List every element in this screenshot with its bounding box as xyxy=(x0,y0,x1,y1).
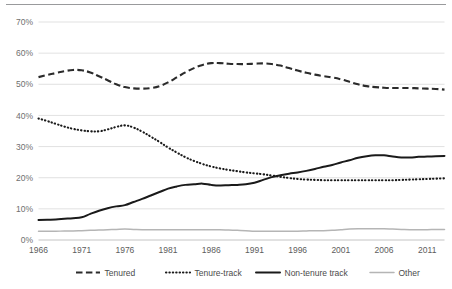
y-tick-label: 50% xyxy=(16,79,33,89)
series-line-tenure-track xyxy=(39,119,445,181)
x-axis-tick-labels: 1966197119761981198619911996200120062011 xyxy=(29,245,437,255)
x-tick-label: 1966 xyxy=(29,245,48,255)
chart-container: 0%10%20%30%40%50%60%70% 1966197119761981… xyxy=(0,0,452,289)
line-chart: 0%10%20%30%40%50%60%70% 1966197119761981… xyxy=(0,0,452,289)
x-tick-label: 1976 xyxy=(115,245,134,255)
x-tick-label: 1991 xyxy=(245,245,264,255)
x-tick-label: 2001 xyxy=(331,245,350,255)
data-series-group xyxy=(39,63,445,231)
legend-label-tenure-track: Tenure-track xyxy=(195,268,243,278)
x-tick-label: 1986 xyxy=(202,245,221,255)
series-line-other xyxy=(39,229,445,232)
x-tick-label: 1971 xyxy=(72,245,91,255)
y-tick-label: 20% xyxy=(16,173,33,183)
series-line-non-tenure-track xyxy=(39,155,445,220)
y-tick-label: 40% xyxy=(16,111,33,121)
x-tick-label: 1981 xyxy=(159,245,178,255)
y-tick-label: 60% xyxy=(16,48,33,58)
chart-legend: TenuredTenure-trackNon-tenure trackOther xyxy=(76,268,420,278)
y-axis-tick-labels: 0%10%20%30%40%50%60%70% xyxy=(16,17,33,245)
y-tick-label: 70% xyxy=(16,17,33,27)
x-tick-label: 2006 xyxy=(375,245,394,255)
legend-label-other: Other xyxy=(399,268,420,278)
legend-label-non-tenure-track: Non-tenure track xyxy=(285,268,349,278)
x-tick-label: 2011 xyxy=(418,245,437,255)
series-line-tenured xyxy=(39,63,445,90)
x-tick-label: 1996 xyxy=(288,245,307,255)
y-tick-label: 30% xyxy=(16,142,33,152)
legend-label-tenured: Tenured xyxy=(105,268,136,278)
gridlines-group xyxy=(39,22,445,240)
y-tick-label: 10% xyxy=(16,204,33,214)
